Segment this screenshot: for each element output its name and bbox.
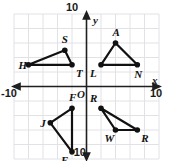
vertex-label-H: H bbox=[19, 60, 28, 71]
vertex-point-R bbox=[135, 127, 141, 133]
vertex-point-S bbox=[62, 48, 68, 54]
x-min-tick-label: -10 bbox=[1, 88, 17, 99]
vertex-label-F: F bbox=[69, 92, 76, 103]
vertex-point-L bbox=[98, 62, 104, 68]
vertex-point-J bbox=[48, 120, 54, 126]
vertex-label-R: R bbox=[141, 133, 148, 144]
vertex-label-L: L bbox=[90, 68, 97, 79]
vertex-label-R: R bbox=[90, 93, 97, 104]
vertex-label-J: J bbox=[40, 118, 46, 129]
vertex-label-W: W bbox=[105, 133, 115, 144]
x-max-tick-label: 10 bbox=[150, 88, 162, 99]
vertex-label-E: E bbox=[61, 155, 68, 161]
vertex-point-N bbox=[135, 62, 141, 68]
vertex-label-N: N bbox=[134, 69, 142, 80]
y-axis-arrow-up bbox=[83, 12, 89, 19]
figure-coordinate-plane: y x O 10 -10 -10 10 HSTLANJFERWR bbox=[0, 0, 171, 161]
x-axis-label: x bbox=[152, 75, 158, 86]
y-axis-label: y bbox=[93, 15, 98, 26]
vertex-point-R bbox=[98, 106, 104, 112]
vertex-point-F bbox=[69, 106, 75, 112]
vertex-point-T bbox=[69, 62, 75, 68]
origin-label: O bbox=[77, 89, 85, 100]
y-max-tick-label: 10 bbox=[66, 2, 78, 13]
vertex-point-A bbox=[113, 40, 119, 46]
vertex-label-A: A bbox=[113, 27, 120, 38]
vertex-label-T: T bbox=[76, 68, 83, 79]
vertex-label-S: S bbox=[62, 34, 68, 45]
y-min-tick-label: -10 bbox=[70, 147, 86, 158]
